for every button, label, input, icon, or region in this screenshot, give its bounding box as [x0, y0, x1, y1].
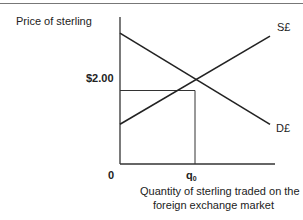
q-subscript: 0	[193, 175, 197, 182]
equilibrium-quantity-label: q0	[186, 169, 197, 185]
demand-curve-label: D£	[276, 122, 290, 134]
equilibrium-price-label: $2.00	[86, 72, 114, 84]
x-axis-label: Quantity of sterling traded on the forei…	[140, 184, 274, 212]
q-label: q	[186, 169, 193, 181]
supply-curve-label: S£	[277, 21, 290, 33]
x-axis-label-line-2: foreign exchange market	[140, 198, 274, 212]
origin-label: 0	[108, 169, 114, 181]
y-axis-label: Price of sterling	[16, 15, 92, 27]
x-axis-label-line-1: Quantity of sterling traded on the	[140, 184, 274, 198]
